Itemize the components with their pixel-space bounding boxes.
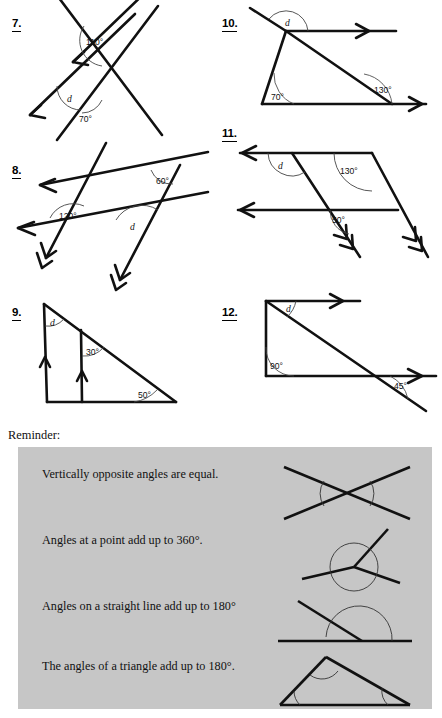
- rem2-ray-2: [354, 529, 388, 567]
- q7-arrow-1: [30, 105, 45, 118]
- q9-label-50: 50°: [138, 390, 151, 400]
- q7-label-d: d: [67, 93, 72, 104]
- reminder-figure-triangle: [276, 649, 432, 714]
- q8-label-120: 120°: [59, 211, 77, 221]
- rem2-ray-1: [302, 567, 354, 579]
- q10-label-70: 70°: [271, 92, 284, 102]
- q8-transversal-1: [46, 143, 106, 258]
- figure-9: d 30° 50°: [14, 285, 204, 425]
- q8-parallel-line-1: [40, 152, 208, 185]
- reminder-figure-angles-at-point: [276, 527, 432, 592]
- q11-label-130: 130°: [340, 166, 358, 176]
- q8-label-d: d: [130, 221, 135, 232]
- reminder-rule-2-text: Angles at a point add up to 360°.: [42, 533, 278, 549]
- rem3-ray: [298, 601, 362, 641]
- q8-label-60: 60°: [156, 176, 169, 186]
- problem-11: 11.: [216, 125, 432, 285]
- problem-8: 8.: [0, 140, 216, 285]
- q9-hypotenuse: [44, 304, 176, 402]
- reminder-rule-4-text: The angles of a triangle add up to 180°.: [42, 659, 278, 675]
- q9-internal-parallel: [81, 330, 82, 402]
- figure-12: d 90° 45°: [248, 285, 442, 425]
- q11-arrow-4a: [403, 227, 416, 241]
- q12-label-d: d: [286, 303, 291, 314]
- figure-11: d 130° 50°: [230, 125, 434, 285]
- reminder-rule-1: Vertically opposite angles are equal.: [18, 461, 432, 526]
- reminder-rule-2: Angles at a point add up to 360°.: [18, 527, 432, 592]
- figure-7: 110° d 70°: [10, 0, 210, 140]
- problem-number-12: 12.: [222, 307, 237, 321]
- rem4-left-side: [280, 657, 326, 705]
- figure-8: 120° 60° d: [8, 140, 216, 285]
- q8-parallel-line-2: [18, 192, 208, 228]
- problem-12: 12. d 90°: [216, 285, 432, 425]
- reminder-rule-4: The angles of a triangle add up to 180°.: [18, 649, 432, 714]
- problem-number-10: 10.: [222, 18, 237, 32]
- q9-left-side: [44, 304, 47, 402]
- q8-arrow-1: [40, 179, 56, 192]
- q8-arrow-2: [18, 222, 35, 235]
- q10-label-130: 130°: [374, 85, 392, 95]
- q11-label-50: 50°: [332, 215, 345, 225]
- rem4-arc-apex: [310, 671, 338, 679]
- q7-label-110: 110°: [86, 37, 103, 47]
- reminder-rule-3-text: Angles on a straight line add up to 180°: [42, 599, 278, 615]
- problem-10: 10.: [216, 0, 432, 125]
- q10-label-d: d: [285, 17, 290, 28]
- q7-label-70: 70°: [79, 114, 92, 124]
- problem-9: 9. d 30° 50: [0, 285, 216, 425]
- q7-parallel-line-2: [73, 0, 178, 62]
- figure-10: d 70° 130°: [244, 0, 432, 125]
- q12-label-90: 90°: [270, 361, 283, 371]
- reminder-figure-vertically-opposite: [276, 461, 432, 526]
- q11-label-d: d: [278, 160, 283, 171]
- q12-label-45: 45°: [394, 381, 407, 391]
- q9-label-30: 30°: [86, 347, 99, 357]
- q9-label-d: d: [50, 317, 55, 328]
- q11-transversal-2: [372, 153, 428, 257]
- problems-grid: 7. 110°: [0, 0, 432, 425]
- rem4-right-side: [326, 657, 410, 705]
- rem4-arc-left: [294, 691, 300, 705]
- problem-7: 7. 110°: [0, 0, 216, 140]
- reminder-box: Vertically opposite angles are equal. An…: [18, 447, 432, 709]
- reminder-rule-1-text: Vertically opposite angles are equal.: [42, 467, 278, 483]
- reminder-heading: Reminder:: [8, 428, 60, 443]
- q12-transversal: [266, 301, 426, 411]
- q8-transversal-2: [120, 165, 180, 280]
- reminder-heading-text: Reminder:: [8, 428, 60, 442]
